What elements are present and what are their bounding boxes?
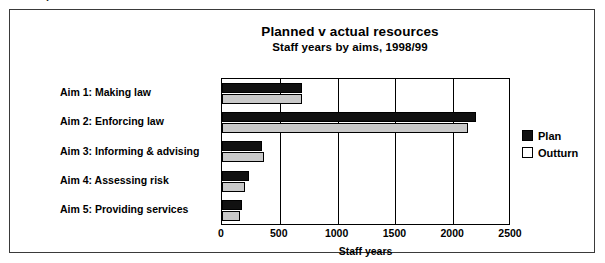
legend-swatch-plan <box>522 130 533 141</box>
bar-plan <box>222 171 249 181</box>
bar-outturn <box>222 211 240 221</box>
bars-layer <box>222 79 509 224</box>
category-label: Aim 2: Enforcing law <box>60 115 218 127</box>
chart-title: Planned v actual resources <box>10 24 594 39</box>
scan-edge-artifact: . <box>46 0 186 5</box>
figure-frame: Planned v actual resources Staff years b… <box>9 9 595 253</box>
x-tick-label: 0 <box>218 227 224 239</box>
bar-group <box>222 138 509 167</box>
bar-group <box>222 79 509 108</box>
chart-subtitle: Staff years by aims, 1998/99 <box>10 41 594 53</box>
x-tick-label: 1000 <box>325 227 348 239</box>
plot-area <box>221 78 510 225</box>
category-label: Aim 5: Providing services <box>60 203 218 215</box>
category-label: Aim 1: Making law <box>60 86 218 98</box>
x-axis-tick-labels: 05001000150020002500 <box>221 227 510 241</box>
legend-label: Plan <box>538 130 561 142</box>
legend-item-plan: Plan <box>522 128 578 143</box>
bar-plan <box>222 141 262 151</box>
bar-outturn <box>222 152 264 162</box>
bar-group <box>222 197 509 226</box>
category-axis-labels: Aim 1: Making lawAim 2: Enforcing lawAim… <box>60 78 218 225</box>
bar-plan <box>222 200 242 210</box>
legend: PlanOutturn <box>522 128 578 162</box>
bar-group <box>222 108 509 137</box>
x-tick-label: 2000 <box>441 227 464 239</box>
bar-plan <box>222 112 476 122</box>
bar-group <box>222 167 509 196</box>
category-label: Aim 3: Informing & advising <box>60 145 218 157</box>
bar-outturn <box>222 182 245 192</box>
clipped-caption-text: . <box>46 0 49 3</box>
x-tick-label: 500 <box>270 227 288 239</box>
legend-label: Outturn <box>538 147 578 159</box>
category-label: Aim 4: Assessing risk <box>60 174 218 186</box>
bar-plan <box>222 83 302 93</box>
bar-outturn <box>222 123 468 133</box>
legend-swatch-outturn <box>522 147 533 158</box>
legend-item-outturn: Outturn <box>522 145 578 160</box>
x-tick-label: 2500 <box>498 227 521 239</box>
x-axis-title: Staff years <box>221 245 510 257</box>
bar-outturn <box>222 94 302 104</box>
x-tick-label: 1500 <box>383 227 406 239</box>
